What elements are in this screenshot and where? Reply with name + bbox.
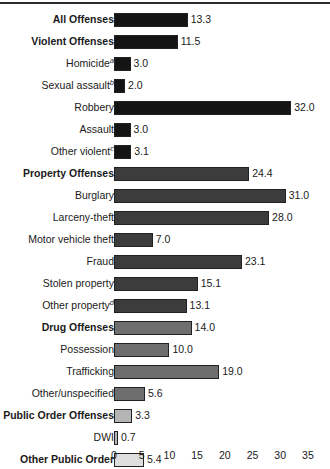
x-axis-tick-label: 10 bbox=[164, 448, 176, 462]
bar-value-label: 32.0 bbox=[294, 100, 314, 115]
bar-row-label: Possession bbox=[60, 342, 114, 357]
bar-row: DWI0.7 bbox=[0, 427, 330, 449]
bar-wrapper bbox=[114, 365, 219, 379]
bar-row-label: DWI bbox=[94, 430, 114, 445]
bar-row-label: Other/unspecified bbox=[32, 386, 114, 401]
bar bbox=[114, 365, 219, 379]
bar-wrapper bbox=[114, 277, 198, 291]
x-axis-tick-label: 5 bbox=[139, 448, 145, 462]
bar-row-label: Larceny-theft bbox=[53, 210, 114, 225]
bar bbox=[114, 255, 242, 269]
bar-row: Robbery32.0 bbox=[0, 97, 330, 119]
bar-wrapper bbox=[114, 145, 131, 159]
bar-row-label: Public Order Offenses bbox=[3, 408, 114, 423]
bar-row: Possession10.0 bbox=[0, 339, 330, 361]
bar-wrapper bbox=[114, 57, 131, 71]
bar bbox=[114, 13, 188, 27]
bar-row: Assault3.0 bbox=[0, 119, 330, 141]
bar-wrapper bbox=[114, 35, 178, 49]
bar-row-label: Property Offenses bbox=[23, 166, 114, 181]
bar-row-label: Other propertyd bbox=[42, 298, 114, 313]
bar-value-label: 13.1 bbox=[190, 298, 210, 313]
bar bbox=[114, 321, 192, 335]
bar bbox=[114, 167, 249, 181]
bar-row: Stolen property15.1 bbox=[0, 273, 330, 295]
bar-row: Violent Offenses11.5 bbox=[0, 31, 330, 53]
x-axis-tick-label: 20 bbox=[219, 448, 231, 462]
bar-row: Trafficking19.0 bbox=[0, 361, 330, 383]
bar-value-label: 0.7 bbox=[121, 430, 136, 445]
bar-value-label: 3.1 bbox=[134, 144, 149, 159]
x-axis: 05101520253035 bbox=[0, 448, 330, 464]
bar bbox=[114, 79, 125, 93]
x-axis-tick-label: 0 bbox=[111, 448, 117, 462]
bar-value-label: 14.0 bbox=[195, 320, 215, 335]
bar-row: Public Order Offenses3.3 bbox=[0, 405, 330, 427]
bar-row-label: Drug Offenses bbox=[42, 320, 114, 335]
bar-wrapper bbox=[114, 431, 118, 445]
bar-row: Motor vehicle theft7.0 bbox=[0, 229, 330, 251]
bar-row: Sexual assaultb2.0 bbox=[0, 75, 330, 97]
bar-row-label: Trafficking bbox=[66, 364, 114, 379]
bar-row-label: Motor vehicle theft bbox=[28, 232, 114, 247]
bar-value-label: 11.5 bbox=[181, 34, 201, 49]
bar-row: Property Offenses24.4 bbox=[0, 163, 330, 185]
bar-value-label: 24.4 bbox=[252, 166, 272, 181]
bar-row-label: Burglary bbox=[75, 188, 114, 203]
bar-value-label: 2.0 bbox=[128, 78, 143, 93]
bar-row: Other propertyd13.1 bbox=[0, 295, 330, 317]
bar-wrapper bbox=[114, 233, 153, 247]
bar bbox=[114, 387, 145, 401]
bar-wrapper bbox=[114, 189, 286, 203]
bar bbox=[114, 299, 187, 313]
bar-row-label: Fraud bbox=[87, 254, 114, 269]
bar-value-label: 23.1 bbox=[245, 254, 265, 269]
bar-row-label: Sexual assaultb bbox=[42, 78, 114, 93]
bar-wrapper bbox=[114, 101, 291, 115]
bar-wrapper bbox=[114, 321, 192, 335]
bar-rows-container: All Offenses13.3Violent Offenses11.5Homi… bbox=[0, 9, 330, 469]
bar-value-label: 3.0 bbox=[134, 122, 149, 137]
bar-wrapper bbox=[114, 79, 125, 93]
bar-value-label: 13.3 bbox=[191, 12, 211, 27]
bar-row: Drug Offenses14.0 bbox=[0, 317, 330, 339]
bar-row: All Offenses13.3 bbox=[0, 9, 330, 31]
bar-value-label: 15.1 bbox=[201, 276, 221, 291]
bar-wrapper bbox=[114, 255, 242, 269]
top-divider-rule bbox=[0, 2, 330, 4]
bar-row: Homicidea3.0 bbox=[0, 53, 330, 75]
bar-row: Fraud23.1 bbox=[0, 251, 330, 273]
bar-wrapper bbox=[114, 343, 169, 357]
bar-value-label: 31.0 bbox=[289, 188, 309, 203]
bar-wrapper bbox=[114, 167, 249, 181]
bar bbox=[114, 277, 198, 291]
bar bbox=[114, 145, 131, 159]
bar bbox=[114, 211, 269, 225]
bar bbox=[114, 343, 169, 357]
bar bbox=[114, 123, 131, 137]
bar-row-label: All Offenses bbox=[53, 12, 114, 27]
x-axis-tick-label: 25 bbox=[247, 448, 259, 462]
bar bbox=[114, 409, 132, 423]
bar-value-label: 19.0 bbox=[222, 364, 242, 379]
x-axis-tick-label: 15 bbox=[191, 448, 203, 462]
bar bbox=[114, 431, 118, 445]
bar-wrapper bbox=[114, 299, 187, 313]
bar-value-label: 10.0 bbox=[172, 342, 192, 357]
bar-wrapper bbox=[114, 211, 269, 225]
bar-row-label: Homicidea bbox=[66, 56, 114, 71]
x-axis-tick-label: 30 bbox=[274, 448, 286, 462]
bar-wrapper bbox=[114, 123, 131, 137]
bar-row: Other violentc3.1 bbox=[0, 141, 330, 163]
x-axis-tick-label: 35 bbox=[302, 448, 314, 462]
bar bbox=[114, 101, 291, 115]
bar-row-label: Robbery bbox=[74, 100, 114, 115]
bar-wrapper bbox=[114, 13, 188, 27]
bar-row-label: Violent Offenses bbox=[31, 34, 114, 49]
bar-row-label: Stolen property bbox=[43, 276, 114, 291]
bar-value-label: 3.0 bbox=[134, 56, 149, 71]
bar-wrapper bbox=[114, 409, 132, 423]
bar bbox=[114, 233, 153, 247]
bar-row: Larceny-theft28.0 bbox=[0, 207, 330, 229]
bar-value-label: 5.6 bbox=[148, 386, 163, 401]
